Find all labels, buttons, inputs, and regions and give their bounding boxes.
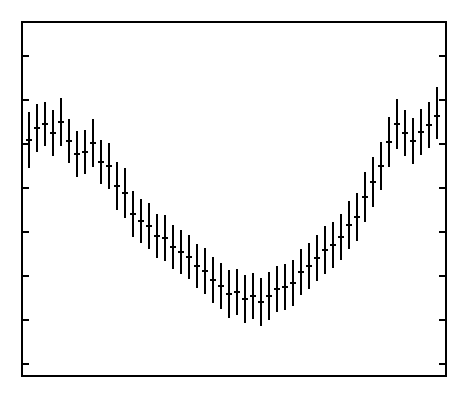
- plot-background: [0, 0, 472, 401]
- plot-area: [0, 0, 472, 401]
- figure-canvas: [0, 0, 472, 401]
